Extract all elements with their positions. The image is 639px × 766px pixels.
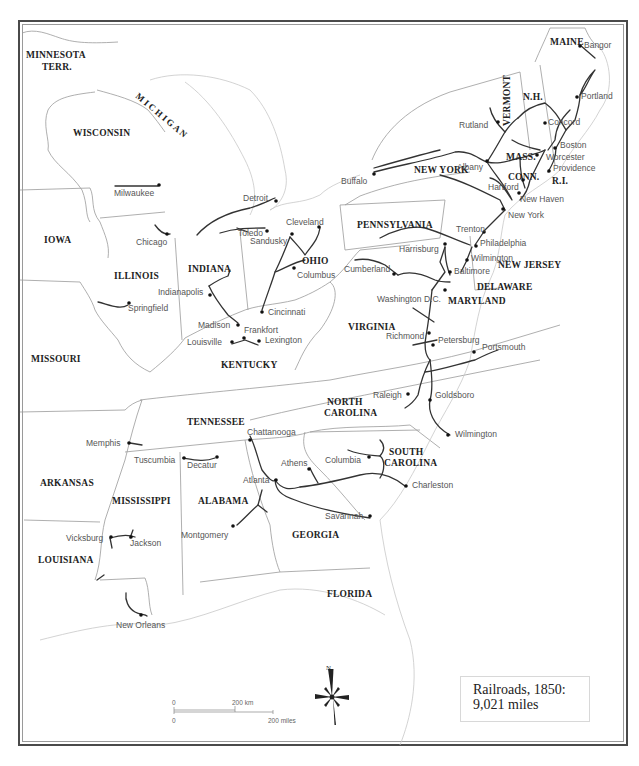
svg-text:Goldsboro: Goldsboro (435, 390, 474, 400)
state-label-rhode-island: R.I. (552, 176, 568, 186)
scale-bar: 0 200 km 0 200 miles (172, 699, 297, 724)
svg-text:Louisville: Louisville (187, 337, 222, 347)
svg-text:M I C H I G A N: M I C H I G A N (134, 91, 190, 140)
svg-text:Montgomery: Montgomery (181, 530, 229, 540)
svg-text:Buffalo: Buffalo (341, 176, 368, 186)
state-label-massachusetts: MASS. (506, 152, 536, 162)
svg-text:Trenton: Trenton (456, 224, 485, 234)
state-label-mississippi: MISSISSIPPI (112, 496, 171, 506)
svg-text:Bangor: Bangor (584, 40, 612, 50)
svg-text:Milwaukee: Milwaukee (114, 188, 154, 198)
state-label-wisconsin: WISCONSIN (73, 128, 130, 138)
svg-text:Rutland: Rutland (459, 120, 489, 130)
svg-text:Concord: Concord (548, 117, 580, 127)
svg-text:Wilmington: Wilmington (471, 253, 513, 263)
state-label-indiana: INDIANA (188, 264, 231, 274)
state-label-iowa: IOWA (44, 235, 71, 245)
railroad-map: M I C H I G A N MINNESOTA TERR. WISCONSI… (0, 0, 639, 766)
svg-text:TERR.: TERR. (42, 62, 72, 72)
svg-text:Decatur: Decatur (187, 460, 217, 470)
svg-text:200 km: 200 km (232, 699, 253, 706)
svg-text:Indianapolis: Indianapolis (158, 287, 203, 297)
state-label-louisiana: LOUISIANA (38, 555, 94, 565)
svg-text:Baltimore: Baltimore (454, 266, 490, 276)
svg-text:Madison: Madison (198, 320, 230, 330)
map-title-line1: Railroads, 1850: (473, 682, 589, 697)
svg-text:Columbus: Columbus (297, 270, 335, 280)
compass-rose-icon: N (315, 664, 349, 725)
svg-text:0: 0 (172, 699, 176, 706)
state-label-south-carolina: SOUTH (389, 447, 424, 457)
svg-text:Sandusky: Sandusky (250, 236, 288, 246)
svg-text:Wilmington: Wilmington (455, 429, 497, 439)
state-label-kentucky: KENTUCKY (221, 360, 278, 370)
state-label-alabama: ALABAMA (198, 496, 248, 506)
svg-text:0: 0 (172, 717, 176, 724)
svg-text:CAROLINA: CAROLINA (324, 408, 377, 418)
svg-text:200 miles: 200 miles (268, 717, 297, 724)
svg-text:Detroit: Detroit (243, 193, 269, 203)
svg-text:Columbia: Columbia (325, 455, 361, 465)
svg-text:Chicago: Chicago (136, 237, 167, 247)
svg-text:Boston: Boston (560, 140, 587, 150)
svg-text:Washington D.C.: Washington D.C. (377, 294, 441, 304)
lake-michigan-label: M I C H I G A N (134, 91, 190, 140)
svg-text:Richmond: Richmond (386, 331, 425, 341)
state-label-connecticut: CONN. (508, 172, 539, 182)
svg-text:Cumberland: Cumberland (344, 264, 391, 274)
svg-text:Hartford: Hartford (488, 182, 519, 192)
svg-text:New York: New York (508, 210, 545, 220)
svg-text:Worcester: Worcester (546, 152, 585, 162)
map-title-line2: 9,021 miles (473, 697, 589, 712)
state-label-missouri: MISSOURI (31, 354, 81, 364)
svg-text:Charleston: Charleston (412, 480, 453, 490)
state-labels: MINNESOTA TERR. WISCONSIN IOWA ILLINOIS … (26, 37, 584, 599)
state-label-ohio: OHIO (302, 256, 329, 266)
svg-text:Portsmouth: Portsmouth (482, 342, 526, 352)
svg-text:Providence: Providence (553, 163, 596, 173)
svg-text:CAROLINA: CAROLINA (384, 458, 437, 468)
railroad-lines (97, 45, 595, 616)
svg-text:Frankfort: Frankfort (244, 325, 279, 335)
svg-text:Vicksburg: Vicksburg (66, 533, 103, 543)
svg-text:Savannah: Savannah (325, 511, 364, 521)
state-label-illinois: ILLINOIS (114, 271, 159, 281)
state-label-arkansas: ARKANSAS (40, 478, 94, 488)
state-label-minnesota: MINNESOTA (26, 50, 86, 60)
svg-text:Atlanta: Atlanta (243, 475, 270, 485)
svg-text:New Orleans: New Orleans (116, 620, 165, 630)
svg-text:Albany: Albany (457, 162, 484, 172)
svg-text:Raleigh: Raleigh (373, 390, 402, 400)
state-label-maine: MAINE (550, 37, 584, 47)
map-title-box: Railroads, 1850: 9,021 miles (460, 676, 590, 722)
svg-text:Tuscumbia: Tuscumbia (134, 455, 176, 465)
svg-text:Philadelphia: Philadelphia (480, 238, 527, 248)
state-label-north-carolina: NORTH (327, 397, 363, 407)
svg-text:Harrisburg: Harrisburg (399, 244, 439, 254)
svg-text:Lexington: Lexington (265, 335, 302, 345)
city-labels: Bangor Portland Concord Rutland Boston W… (66, 40, 613, 630)
state-label-vermont: VERMONT (502, 75, 512, 126)
svg-text:Cincinnati: Cincinnati (268, 307, 305, 317)
state-label-maryland: MARYLAND (448, 296, 506, 306)
svg-text:Springfield: Springfield (128, 303, 168, 313)
state-label-new-hampshire: N.H. (523, 92, 543, 102)
state-label-georgia: GEORGIA (292, 530, 339, 540)
state-label-pennsylvania: PENNSYLVANIA (357, 220, 433, 230)
svg-text:Jackson: Jackson (130, 538, 161, 548)
svg-text:Petersburg: Petersburg (438, 335, 480, 345)
svg-text:Athens: Athens (281, 458, 307, 468)
state-label-tennessee: TENNESSEE (187, 417, 245, 427)
svg-text:Portland: Portland (581, 91, 613, 101)
svg-text:Cleveland: Cleveland (286, 217, 324, 227)
state-label-delaware: DELAWARE (477, 282, 532, 292)
svg-text:Memphis: Memphis (86, 438, 120, 448)
svg-text:New Haven: New Haven (520, 194, 564, 204)
svg-text:Chattanooga: Chattanooga (247, 427, 296, 437)
state-label-florida: FLORIDA (327, 589, 372, 599)
